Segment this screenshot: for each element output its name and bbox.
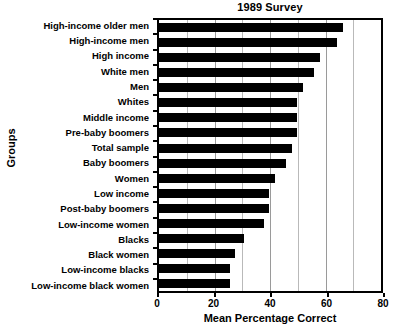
y-tick-label: High-income men — [10, 33, 153, 48]
bar — [159, 83, 303, 92]
x-axis-tick-labels: 020406080 — [157, 298, 383, 312]
bar-row — [159, 65, 381, 80]
y-tick-label: Black women — [10, 247, 153, 262]
x-tick-mark — [214, 293, 216, 297]
x-tick-label: 80 — [377, 298, 388, 309]
bar-row — [159, 141, 381, 156]
bar-row — [159, 95, 381, 110]
y-tick-label: Women — [10, 171, 153, 186]
bar-row — [159, 186, 381, 201]
y-tick-label: Pre-baby boomers — [10, 125, 153, 140]
y-axis-tick-labels: High-income older menHigh-income menHigh… — [10, 18, 153, 293]
y-tick-label: Middle income — [10, 110, 153, 125]
y-tick-label: Baby boomers — [10, 156, 153, 171]
bar-row — [159, 156, 381, 171]
bar-chart-figure: 1989 Survey Groups High-income older men… — [0, 0, 410, 329]
bar — [159, 174, 275, 183]
y-tick-label: Low income — [10, 186, 153, 201]
bar — [159, 68, 314, 77]
bar — [159, 234, 244, 243]
bar-row — [159, 35, 381, 50]
bar-row — [159, 20, 381, 35]
bar-row — [159, 261, 381, 276]
plot-area — [157, 18, 383, 293]
y-tick-label: White men — [10, 64, 153, 79]
bar-row — [159, 231, 381, 246]
x-tick-mark — [383, 293, 385, 297]
y-tick-label: Whites — [10, 94, 153, 109]
y-tick-label: Low-income blacks — [10, 263, 153, 278]
bar-row — [159, 110, 381, 125]
bar — [159, 113, 297, 122]
bar-row — [159, 80, 381, 95]
chart-title: 1989 Survey — [157, 1, 383, 13]
bar — [159, 128, 297, 137]
bar-row — [159, 171, 381, 186]
y-tick-label: High income — [10, 49, 153, 64]
x-tick-label: 20 — [208, 298, 219, 309]
x-tick-mark — [327, 293, 329, 297]
x-tick-label: 40 — [264, 298, 275, 309]
bar — [159, 264, 230, 273]
x-tick-mark — [270, 293, 272, 297]
x-tick-label: 0 — [154, 298, 160, 309]
y-tick-label: Low-income black women — [10, 278, 153, 293]
bar — [159, 144, 292, 153]
bar — [159, 38, 337, 47]
bar — [159, 23, 343, 32]
bar — [159, 189, 269, 198]
bar-series — [159, 20, 381, 291]
y-tick-label: Low-income women — [10, 217, 153, 232]
bar — [159, 53, 320, 62]
bar-row — [159, 216, 381, 231]
bar-row — [159, 246, 381, 261]
y-tick-label: Total sample — [10, 140, 153, 155]
y-tick-label: High-income older men — [10, 18, 153, 33]
y-tick-label: Blacks — [10, 232, 153, 247]
bar — [159, 98, 297, 107]
y-tick-label: Men — [10, 79, 153, 94]
bar-row — [159, 276, 381, 291]
y-tick-label: Post-baby boomers — [10, 201, 153, 216]
x-tick-mark — [157, 293, 159, 297]
bar — [159, 279, 230, 288]
bar — [159, 219, 264, 228]
bar-row — [159, 125, 381, 140]
bar — [159, 249, 235, 258]
bar — [159, 204, 269, 213]
bar-row — [159, 201, 381, 216]
bar — [159, 159, 286, 168]
x-axis-title: Mean Percentage Correct — [157, 312, 383, 324]
bar-row — [159, 50, 381, 65]
x-tick-label: 60 — [321, 298, 332, 309]
